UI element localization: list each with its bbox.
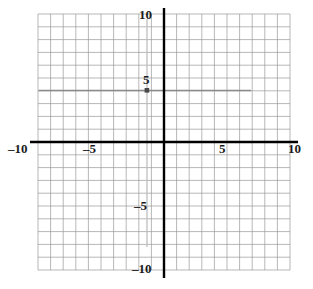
coordinate-graph: –10 –5 5 10 10 5 –5 –10 xyxy=(0,0,313,289)
plot-canvas xyxy=(0,0,313,289)
plotted-point-marker xyxy=(145,88,150,93)
y-tick-label-neg-5: –5 xyxy=(134,199,147,212)
x-tick-label-neg-10: –10 xyxy=(8,142,28,155)
x-tick-label-pos-10: 10 xyxy=(288,142,301,155)
y-tick-label-pos-5: 5 xyxy=(143,73,150,86)
y-tick-label-neg-10: –10 xyxy=(132,262,152,275)
x-tick-label-neg-5: –5 xyxy=(83,142,96,155)
y-tick-label-pos-10: 10 xyxy=(139,8,152,21)
x-tick-label-pos-5: 5 xyxy=(219,142,226,155)
